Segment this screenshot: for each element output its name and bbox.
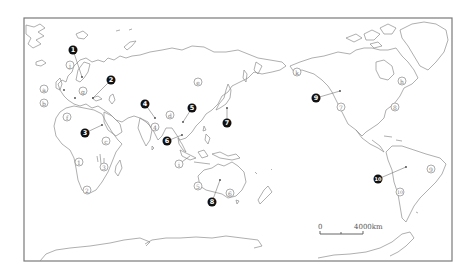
marker-letter-j[interactable]: j <box>66 61 74 70</box>
coastline-eurasia <box>58 46 286 140</box>
svg-text:1: 1 <box>77 159 81 166</box>
coastline-greenland <box>400 22 448 70</box>
coastline-canadian-arctic <box>346 24 396 48</box>
target-points <box>63 76 407 181</box>
map-frame <box>24 18 452 261</box>
marker-solid-2[interactable]: 2 <box>107 76 116 85</box>
svg-text:i: i <box>178 161 180 168</box>
marker-letter-a[interactable]: a <box>40 85 48 93</box>
coastline-svalbard <box>76 31 88 39</box>
svg-text:9: 9 <box>429 166 433 173</box>
marker-solid-6[interactable]: 6 <box>163 137 172 146</box>
marker-number-10[interactable]: 10 <box>396 188 404 196</box>
marker-number-4[interactable]: 4 <box>151 123 159 131</box>
svg-text:d: d <box>168 112 172 119</box>
svg-text:10: 10 <box>397 190 403 195</box>
marker-letter-d[interactable]: d <box>166 111 174 119</box>
marker-number-1[interactable]: 1 <box>75 158 83 166</box>
marker-letter-k[interactable]: k <box>293 68 301 76</box>
svg-text:10: 10 <box>375 176 382 182</box>
marker-number-5[interactable]: 5 <box>194 182 202 190</box>
svg-text:j: j <box>68 62 71 70</box>
coastline-caribbean <box>384 136 402 141</box>
marker-solid-9[interactable]: 9 <box>312 94 321 103</box>
marker-number-2[interactable]: 2 <box>83 186 91 194</box>
coastline-taiwan <box>203 126 206 131</box>
coastline-arabia <box>104 112 122 136</box>
coastline-north-america <box>290 48 418 136</box>
coastline-new-zealand <box>258 186 272 204</box>
svg-text:7: 7 <box>225 119 230 127</box>
marker-letter-i[interactable]: i <box>175 160 183 168</box>
marker-number-9[interactable]: 9 <box>427 165 435 173</box>
marker-solid-1[interactable]: 1 <box>69 46 78 55</box>
svg-text:2: 2 <box>85 187 89 194</box>
svg-text:3: 3 <box>102 164 106 171</box>
svg-text:5: 5 <box>196 183 200 190</box>
marker-solid-3[interactable]: 3 <box>81 129 90 138</box>
svg-text:4: 4 <box>153 124 157 131</box>
marker-solid-4[interactable]: 4 <box>141 100 150 109</box>
coastline-hudson-bay <box>376 60 394 80</box>
svg-text:4: 4 <box>143 100 148 108</box>
marker-number-6[interactable]: 6 <box>226 189 234 197</box>
marker-number-7[interactable]: 7 <box>337 103 345 111</box>
coastline-australia <box>198 162 246 198</box>
scale-zero-label: 0 <box>318 223 322 231</box>
marker-letter-f[interactable]: f <box>63 113 71 121</box>
svg-text:8: 8 <box>210 198 215 206</box>
scale-bar: 0 4000km <box>318 223 383 234</box>
coastline-novaya-zemlya <box>124 41 136 50</box>
svg-text:e: e <box>196 79 200 86</box>
coastline-tasmania <box>236 200 239 204</box>
coastline-falklands <box>416 212 418 213</box>
leader-lines <box>73 50 406 202</box>
world-map: 1 2 3 4 5 6 7 8 9 10 a b c d e f g h i k… <box>0 0 469 274</box>
marker-solid-10[interactable]: 10 <box>374 175 383 184</box>
svg-text:b: b <box>42 100 46 107</box>
svg-text:5: 5 <box>190 104 195 112</box>
coastline-iceland <box>36 60 46 66</box>
marker-letter-h[interactable]: h <box>398 77 406 85</box>
coastline-greenland-west <box>26 24 45 48</box>
svg-text:2: 2 <box>109 76 114 84</box>
coastline-caspian <box>109 94 115 104</box>
scale-distance-label: 4000km <box>354 223 383 231</box>
coastline-antarctica-central <box>145 236 262 248</box>
svg-text:3: 3 <box>83 129 88 137</box>
svg-text:6: 6 <box>165 137 170 145</box>
coastline-sri-lanka <box>152 146 154 150</box>
svg-text:a: a <box>42 86 46 93</box>
marker-letter-e[interactable]: e <box>194 78 202 86</box>
coastline-antarctica-east <box>318 232 414 258</box>
marker-solid-5[interactable]: 5 <box>188 104 197 113</box>
marker-number-3[interactable]: 3 <box>100 163 108 171</box>
svg-text:g: g <box>81 88 85 96</box>
svg-text:7: 7 <box>339 104 343 111</box>
coastline-philippines <box>205 134 210 144</box>
coastline-india <box>138 118 152 146</box>
svg-text:9: 9 <box>314 94 319 102</box>
svg-text:6: 6 <box>228 190 232 197</box>
svg-text:k: k <box>295 69 299 76</box>
coastline-central-america <box>356 130 384 152</box>
coastline-malay-peninsula <box>178 138 186 152</box>
coastline-great-britain <box>56 78 62 90</box>
marker-letter-b[interactable]: b <box>40 99 48 107</box>
coastline-japan <box>216 84 231 110</box>
marker-letter-g[interactable]: g <box>79 87 87 96</box>
coastline-pacific-islets <box>255 169 272 174</box>
marker-letter-c[interactable]: c <box>102 137 110 145</box>
coastline-antarctica-west <box>40 238 150 261</box>
coastline-arctic-islets <box>116 29 132 31</box>
marker-number-8[interactable]: 8 <box>391 103 399 111</box>
marker-solid-8[interactable]: 8 <box>208 198 217 207</box>
svg-text:h: h <box>400 78 404 85</box>
coastline-madagascar <box>115 160 122 176</box>
coastline-south-america <box>386 146 446 222</box>
svg-text:1: 1 <box>71 46 76 54</box>
marker-solid-7[interactable]: 7 <box>223 119 232 128</box>
svg-text:8: 8 <box>393 104 397 111</box>
